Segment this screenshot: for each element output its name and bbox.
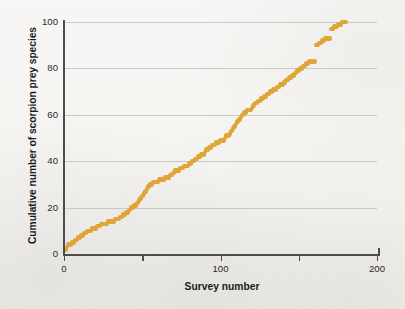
data-series-cumulative-prey-species bbox=[64, 22, 377, 254]
plot-area bbox=[64, 22, 377, 254]
y-tick-label: 20 bbox=[32, 202, 58, 213]
x-axis-title: Survey number bbox=[64, 281, 380, 292]
y-tick-label: 60 bbox=[32, 109, 58, 120]
x-tick-label: 0 bbox=[46, 263, 82, 274]
x-tick-150 bbox=[299, 255, 300, 261]
y-axis-title: Cumulative number of scorpion prey speci… bbox=[27, 16, 38, 256]
y-tick-label: 100 bbox=[32, 16, 58, 27]
y-tick-label: 0 bbox=[32, 248, 58, 259]
x-tick-50 bbox=[142, 255, 143, 261]
x-tick-200 bbox=[377, 255, 378, 261]
scorpion-prey-accumulation-chart: Cumulative number of scorpion prey speci… bbox=[0, 0, 405, 309]
x-tick-label: 200 bbox=[359, 263, 395, 274]
x-tick-0 bbox=[64, 255, 65, 261]
x-tick-label: 100 bbox=[203, 263, 239, 274]
y-tick-label: 80 bbox=[32, 62, 58, 73]
data-point bbox=[312, 59, 317, 64]
x-tick-100 bbox=[221, 255, 222, 261]
y-tick-label: 40 bbox=[32, 155, 58, 166]
data-point bbox=[343, 20, 348, 25]
y-axis-line bbox=[63, 20, 65, 256]
data-point bbox=[328, 36, 333, 41]
